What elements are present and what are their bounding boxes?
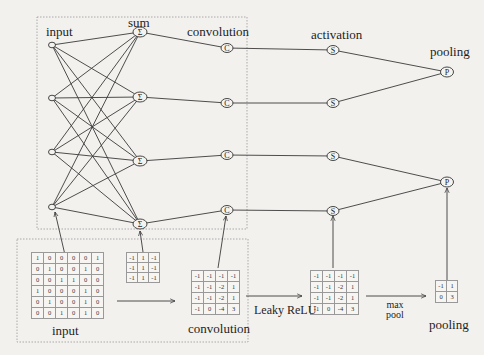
edge-sum-conv-3 [140, 155, 227, 161]
matrix-row: 03 [436, 292, 458, 303]
matrix-cell: -1 [347, 271, 359, 282]
matrix-cell: 0 [56, 264, 68, 275]
matrix-cell: -1 [323, 282, 335, 293]
convolution-matrix: -1-1-1-1-1-1-21-1-1-21-10-43 [191, 270, 240, 315]
activation-layer-label: activation [311, 28, 362, 41]
edge-activation-pooling-4 [333, 182, 447, 211]
matrix-row: -1-1-21 [192, 282, 240, 293]
activation-node-3: S [327, 152, 339, 162]
svg-text:C: C [224, 44, 229, 53]
matrix-cell: 0 [68, 286, 80, 297]
matrix-cell: 0 [56, 297, 68, 308]
matrix-cell: 1 [32, 286, 44, 297]
matrix-cell: 1 [80, 264, 92, 275]
svg-text:P: P [445, 68, 450, 77]
input-node-4 [49, 204, 56, 210]
svg-text:P: P [445, 178, 450, 187]
matrix-cell: -4 [335, 304, 347, 315]
matrix-cell: 1 [228, 293, 240, 304]
matrix-cell: -2 [335, 282, 347, 293]
matrix-cell: -1 [127, 263, 138, 273]
matrix-cell: -1 [216, 271, 228, 282]
matrix-cell: 3 [347, 304, 359, 315]
matrix-cell: 0 [204, 304, 216, 315]
sum-node-4: Σ [133, 219, 147, 229]
matrix-row: 100010 [32, 286, 104, 297]
matrix-cell: -1 [436, 281, 447, 292]
matrix-cell: -1 [323, 293, 335, 304]
matrix-cell: -1 [204, 293, 216, 304]
matrix-row: 010010 [32, 264, 104, 275]
matrix-cell: 1 [68, 275, 80, 286]
matrix-cell: 0 [68, 297, 80, 308]
matrix-cell: 0 [80, 253, 92, 264]
matrix-cell: 1 [80, 308, 92, 319]
matrix-cell: 0 [436, 292, 447, 303]
matrix-cell: 1 [44, 297, 56, 308]
input-node-3 [49, 149, 56, 155]
svg-text:Σ: Σ [138, 220, 143, 229]
matrix-cell: 1 [447, 281, 458, 292]
kernel-matrix: -11-1-11-1-11-1 [126, 252, 160, 283]
svg-text:C: C [224, 151, 229, 160]
matrix-row: -11 [436, 281, 458, 292]
matrix-row: -11-1 [127, 273, 160, 283]
svg-text:C: C [224, 206, 229, 215]
matrix-cell: -1 [192, 282, 204, 293]
matrix-cell: 1 [44, 264, 56, 275]
convolution-node-4: C [221, 206, 233, 216]
matrix-cell: 0 [323, 304, 335, 315]
matrix-cell: -1 [192, 304, 204, 315]
matrix-cell: 0 [92, 297, 104, 308]
matrix-row: -1-1-1-1 [311, 271, 359, 282]
matrix-cell: 1 [80, 286, 92, 297]
matrix-cell: 1 [347, 282, 359, 293]
pooling-node-2: P [441, 177, 454, 187]
edge-conv-activation-4 [227, 210, 333, 211]
svg-text:S: S [331, 99, 335, 108]
matrix-cell: -1 [149, 263, 160, 273]
pooling-node-1: P [441, 67, 454, 77]
matrix-cell: 1 [138, 273, 149, 283]
pooling-layer-label: pooling [430, 45, 470, 58]
matrix-cell: 0 [56, 253, 68, 264]
matrix-row: -10-43 [311, 304, 359, 315]
convolution-node-1: C [221, 44, 233, 54]
matrix-row: 100001 [32, 253, 104, 264]
svg-text:C: C [224, 99, 229, 108]
convolution-node-3: C [221, 151, 233, 161]
matrix-cell: 1 [56, 308, 68, 319]
matrix-cell: 0 [32, 297, 44, 308]
matrix-cell: 0 [80, 275, 92, 286]
matrix-cell: -2 [216, 293, 228, 304]
matrix-cell: 1 [228, 282, 240, 293]
matrix-cell: -1 [149, 273, 160, 283]
matrix-cell: -2 [216, 282, 228, 293]
matrix-row: -1-1-1-1 [192, 271, 240, 282]
matrix-cell: 1 [138, 253, 149, 263]
matrix-cell: 0 [68, 253, 80, 264]
arrow-conv-matrix-to-conv-node [218, 216, 226, 268]
matrix-row: -11-1 [127, 263, 160, 273]
edge-activation-pooling-3 [333, 156, 447, 182]
matrix-cell: -1 [204, 271, 216, 282]
matrix-row: -1-1-21 [192, 293, 240, 304]
matrix-cell: -1 [192, 271, 204, 282]
edge-activation-pooling-2 [333, 72, 447, 103]
svg-text:Σ: Σ [138, 157, 143, 166]
matrix-cell: 0 [32, 264, 44, 275]
matrix-cell: 0 [56, 286, 68, 297]
matrix-cell: -1 [323, 271, 335, 282]
matrix-row: 001100 [32, 275, 104, 286]
matrix-cell: -1 [311, 271, 323, 282]
matrix-cell: 1 [32, 253, 44, 264]
pooling-matrix-label: pooling [429, 318, 469, 331]
activation-node-1: S [327, 46, 339, 56]
input-layer-label: input [46, 25, 73, 38]
matrix-cell: 0 [92, 275, 104, 286]
leaky-relu-label: Leaky ReLU [254, 304, 316, 316]
matrix-cell: 0 [92, 286, 104, 297]
matrix-cell: 0 [44, 308, 56, 319]
activation-node-4: S [327, 207, 339, 217]
matrix-cell: 3 [447, 292, 458, 303]
